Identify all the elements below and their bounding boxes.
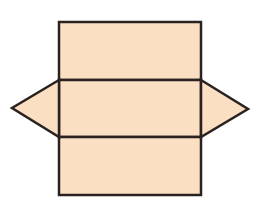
bottom-rectangle: [59, 137, 201, 195]
right-triangle: [201, 80, 248, 137]
top-rectangle: [59, 22, 201, 80]
middle-rectangle: [59, 80, 201, 137]
left-triangle: [12, 80, 59, 137]
net-faces: [12, 22, 248, 195]
prism-net-diagram: [0, 0, 264, 201]
